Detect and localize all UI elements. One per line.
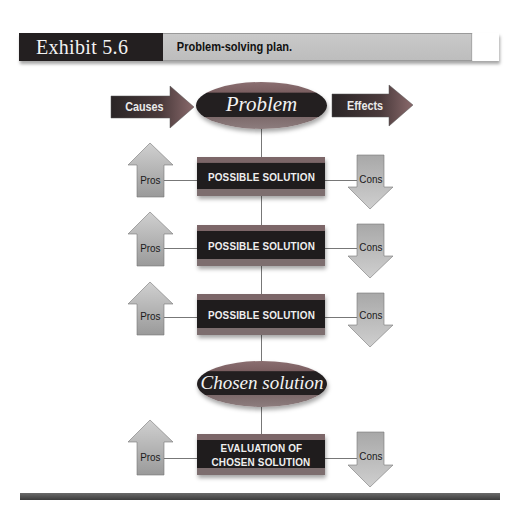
connector-spine-5 <box>261 406 262 435</box>
evaluation-box: EVALUATION OF CHOSEN SOLUTION <box>197 434 325 475</box>
pros-label: Pros <box>140 310 160 322</box>
exhibit-label: Exhibit 5.6 <box>19 33 163 61</box>
cons-label: Cons <box>359 450 382 462</box>
connector-spine-3 <box>261 266 262 295</box>
pros-up-arrow-icon <box>128 420 174 476</box>
possible-solution-box: POSSIBLE SOLUTION <box>197 157 325 196</box>
possible-solution-box: POSSIBLE SOLUTION <box>197 294 325 335</box>
bottom-rule <box>20 493 500 500</box>
possible-solution-box: POSSIBLE SOLUTION <box>197 225 325 266</box>
causes-label: Causes <box>125 100 163 114</box>
pros-label: Pros <box>140 451 160 463</box>
connector-spine-2 <box>261 196 262 226</box>
cons-label: Cons <box>359 173 382 185</box>
chosen-solution-ellipse: Chosen solution <box>197 361 327 407</box>
effects-label: Effects <box>347 99 383 113</box>
evaluation-line-1: EVALUATION OF <box>220 441 302 455</box>
connector-spine-1 <box>261 128 262 158</box>
cons-label: Cons <box>359 309 382 321</box>
chosen-solution-label: Chosen solution <box>201 372 324 393</box>
pros-up-arrow-icon <box>128 143 174 198</box>
evaluation-line-2: CHOSEN SOLUTION <box>212 455 311 469</box>
pros-up-arrow-icon <box>128 212 174 267</box>
cons-label: Cons <box>359 241 382 253</box>
exhibit-header: Exhibit 5.6 Problem-solving plan. <box>19 33 499 61</box>
problem-label: Problem <box>226 92 298 116</box>
connector-spine-4 <box>261 335 262 362</box>
pros-label: Pros <box>140 242 160 254</box>
pros-label: Pros <box>140 174 160 186</box>
exhibit-caption: Problem-solving plan. <box>163 33 472 61</box>
problem-ellipse: Problem <box>196 82 327 129</box>
